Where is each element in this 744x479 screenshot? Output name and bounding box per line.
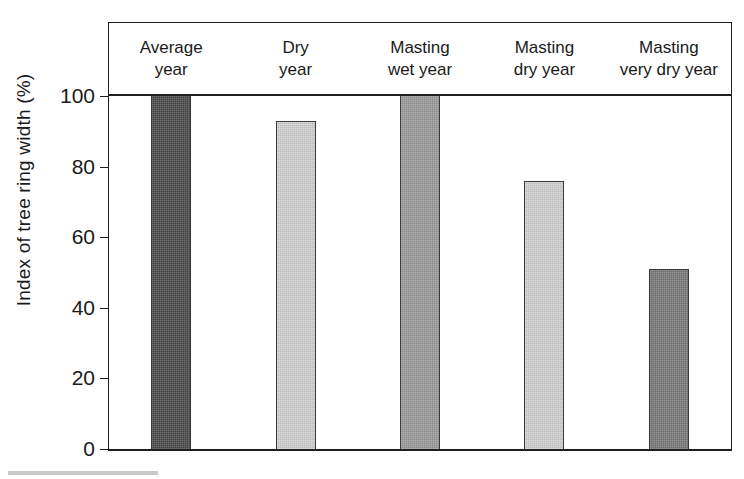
bar-dry-year (276, 121, 316, 449)
y-axis-tick-label: 100 (60, 84, 95, 108)
y-axis-title: Index of tree ring width (%) (13, 10, 43, 370)
bar-chart-figure: Index of tree ring width (%) Average yea… (0, 0, 744, 479)
bar-masting-wet-year (400, 96, 440, 449)
category-header-box: Average year Dry year Masting wet year M… (108, 22, 732, 95)
bar-slot-average-year (109, 96, 233, 449)
plot-area: 020406080100 (108, 94, 732, 451)
y-axis-tick-mark (100, 378, 109, 379)
y-axis-tick-label: 80 (72, 154, 95, 178)
y-axis-tick-label: 60 (72, 225, 95, 249)
category-header-masting-dry-year: Masting dry year (482, 23, 606, 95)
bar-slot-masting-very-dry-year (607, 96, 731, 449)
category-header-line-2: year (155, 59, 188, 81)
category-header-masting-very-dry-year: Masting very dry year (607, 23, 731, 95)
category-header-line-1: Average (140, 37, 203, 59)
category-header-line-1: Masting (639, 37, 699, 59)
scan-artifact-mark (8, 471, 158, 475)
y-axis-tick-mark (100, 449, 109, 450)
category-header-average-year: Average year (109, 23, 233, 95)
category-header-masting-wet-year: Masting wet year (358, 23, 482, 95)
category-header-line-2: dry year (514, 59, 575, 81)
category-header-line-1: Masting (390, 37, 450, 59)
y-axis-tick-label: 0 (83, 437, 95, 461)
y-axis-tick-mark (100, 167, 109, 168)
y-axis-tick-label: 40 (72, 295, 95, 319)
bar-average-year (151, 96, 191, 449)
category-header-dry-year: Dry year (233, 23, 357, 95)
category-header-line-2: wet year (388, 59, 452, 81)
category-header-line-1: Masting (515, 37, 575, 59)
bar-masting-dry-year (524, 181, 564, 449)
y-axis-tick-mark (100, 96, 109, 97)
bar-series (109, 96, 731, 449)
bar-slot-masting-dry-year (482, 96, 606, 449)
category-header-line-1: Dry (282, 37, 308, 59)
category-header-line-2: year (279, 59, 312, 81)
y-axis-tick-mark (100, 308, 109, 309)
bar-masting-very-dry-year (649, 269, 689, 449)
y-axis-tick-mark (100, 237, 109, 238)
y-axis-tick-label: 20 (72, 366, 95, 390)
bar-slot-dry-year (233, 96, 357, 449)
category-header-line-2: very dry year (620, 59, 718, 81)
bar-slot-masting-wet-year (358, 96, 482, 449)
